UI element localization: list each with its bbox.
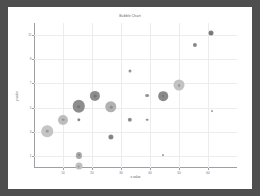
y-tick: [32, 59, 34, 60]
scatter-bubble-core: [78, 155, 80, 157]
scatter-bubble: [211, 110, 213, 112]
scatter-bubble: [58, 115, 68, 125]
gridline-horizontal: [34, 132, 237, 133]
gridline-horizontal: [34, 156, 237, 157]
scatter-bubble-core: [147, 119, 148, 120]
scatter-bubble: [146, 118, 149, 121]
scatter-bubble: [75, 163, 82, 170]
scatter-bubble-core: [147, 95, 148, 96]
scatter-bubble-core: [78, 165, 80, 167]
gridline-horizontal: [34, 83, 237, 84]
scatter-bubble-core: [78, 119, 79, 120]
y-tick-label: 11: [28, 33, 31, 37]
y-tick-label: 3: [30, 130, 32, 134]
gridline-vertical: [63, 23, 64, 168]
y-tick: [32, 132, 34, 133]
scatter-bubble-core: [109, 105, 112, 108]
x-tick-label: 30: [119, 171, 122, 175]
scatter-bubble-core: [94, 95, 97, 98]
x-tick-label: 10: [61, 171, 64, 175]
gridline-horizontal: [34, 108, 237, 109]
y-axis-line: [34, 23, 35, 168]
scatter-bubble: [162, 154, 164, 156]
scatter-bubble: [208, 31, 213, 36]
y-tick: [32, 156, 34, 157]
scatter-bubble-core: [194, 44, 195, 45]
gridline-vertical: [121, 23, 122, 168]
scatter-bubble-core: [77, 105, 80, 108]
scatter-bubble-core: [212, 111, 213, 112]
scatter-bubble: [127, 117, 131, 121]
gridline-horizontal: [34, 35, 237, 36]
gridline-vertical: [179, 23, 180, 168]
scatter-bubble: [128, 69, 131, 72]
y-tick-label: 9: [30, 57, 32, 61]
scatter-bubble-core: [129, 119, 130, 120]
scatter-bubble-core: [162, 95, 164, 97]
x-tick-label: 40: [148, 171, 151, 175]
scatter-bubble: [174, 80, 185, 91]
scatter-bubble-core: [129, 70, 130, 71]
y-tick: [32, 108, 34, 109]
scatter-bubble-core: [46, 130, 49, 133]
scatter-bubble: [193, 43, 197, 47]
scatter-bubble: [90, 91, 100, 101]
desktop-background: Bubble Chart 1357911102030405060 x value…: [0, 0, 260, 196]
scatter-bubble-core: [163, 154, 164, 155]
scatter-bubble-core: [210, 33, 211, 34]
scatter-bubble: [108, 135, 113, 140]
y-tick-label: 5: [30, 106, 32, 110]
scatter-bubble: [77, 118, 80, 121]
scatter-bubble: [145, 94, 149, 98]
chart-figure-panel: Bubble Chart 1357911102030405060 x value…: [8, 7, 252, 189]
scatter-bubble-core: [62, 118, 65, 121]
x-axis-label: x value: [34, 175, 237, 179]
scatter-bubble: [76, 152, 82, 158]
x-tick-label: 50: [177, 171, 180, 175]
y-tick: [32, 35, 34, 36]
scatter-bubble: [41, 125, 53, 137]
x-axis-line: [34, 167, 237, 168]
scatter-bubble-core: [178, 84, 181, 87]
y-axis-label: y value: [15, 90, 19, 100]
plot-area: 1357911102030405060 x value y value: [34, 23, 237, 168]
y-tick-label: 1: [30, 154, 32, 158]
gridline-horizontal: [34, 59, 237, 60]
chart-title: Bubble Chart: [8, 14, 252, 18]
scatter-bubble-core: [110, 137, 111, 138]
gridline-vertical: [150, 23, 151, 168]
x-tick-label: 20: [90, 171, 93, 175]
y-tick-label: 7: [30, 81, 32, 85]
scatter-bubble: [73, 100, 86, 113]
scatter-bubble: [158, 91, 168, 101]
y-tick: [32, 83, 34, 84]
gridline-vertical: [208, 23, 209, 168]
scatter-bubble: [105, 101, 117, 113]
x-tick-label: 60: [206, 171, 209, 175]
